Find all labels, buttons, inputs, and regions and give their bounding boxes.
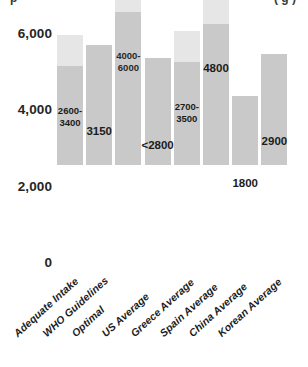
bar[interactable]: [261, 54, 287, 165]
bar-segment-high: [174, 31, 200, 62]
bar-value-label: 4800: [187, 62, 245, 75]
potassium-intake-bar-chart: p ( g ) 02,0004,0006,000 2600- 340031504…: [0, 0, 308, 367]
bar-value-label: 2900: [245, 135, 303, 148]
bar[interactable]: [174, 31, 200, 165]
bar-series: 2600- 340031504000- 6000<28002700- 35004…: [0, 0, 308, 270]
bar[interactable]: [203, 0, 229, 165]
bar-value-label: 1800: [216, 177, 274, 190]
bar-segment-high: [115, 0, 141, 12]
bar[interactable]: [232, 96, 258, 165]
bar[interactable]: [57, 35, 83, 165]
x-axis-category-labels: Adequate IntakeWHO GuidelinesOptimalUS A…: [0, 262, 308, 367]
plot-area: 02,0004,0006,000 2600- 340031504000- 600…: [0, 0, 308, 270]
bar-segment-low: [203, 24, 229, 165]
bar-segment: [232, 96, 258, 165]
bar-segment-high: [57, 35, 83, 66]
bar-segment: [261, 54, 287, 165]
bar-segment-high: [203, 0, 229, 24]
